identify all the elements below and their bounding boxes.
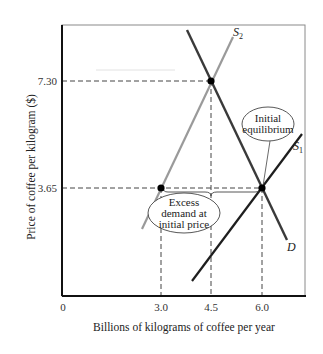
y-axis-label: Price of coffee per kilogram ($) [25, 94, 37, 240]
x-tick-3-0: 3.0 [154, 301, 168, 313]
s2-label: S2 [233, 25, 243, 41]
d-label: D [287, 240, 296, 255]
initial-equilibrium-text: Initial equilibrium [242, 113, 293, 135]
s1-label: S1 [293, 139, 303, 155]
plot-frame [62, 25, 305, 296]
y-tick-3-65: 3.65 [38, 182, 57, 194]
x-axis-label: Billions of kilograms of coffee per year [93, 321, 275, 333]
s2-initial-price-point [157, 184, 164, 191]
initial-equilibrium-point [258, 184, 265, 191]
new-equilibrium-point [207, 77, 214, 84]
x-tick-6-0: 6.0 [255, 301, 269, 313]
y-tick-7-30: 7.30 [38, 75, 57, 87]
x-tick-4-5: 4.5 [204, 301, 218, 313]
x-tick-0: 0 [60, 301, 66, 313]
excess-demand-text: Excess demand at initial price [159, 197, 209, 230]
